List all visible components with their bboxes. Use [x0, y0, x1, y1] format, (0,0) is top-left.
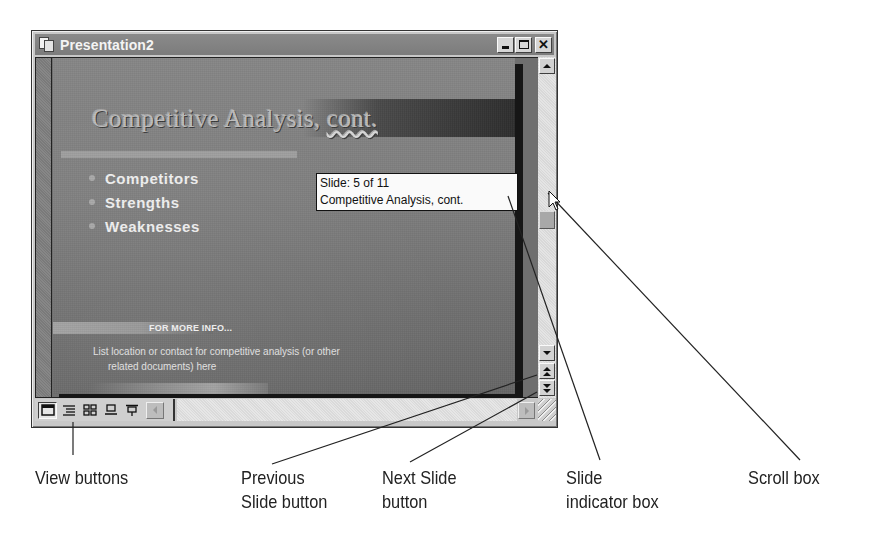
caption-scroll-box: Scroll box: [748, 466, 820, 490]
notes-page-view-button[interactable]: [101, 402, 120, 419]
presentation-window: Presentation2 ✕ Competitive Analysis, co…: [31, 30, 558, 428]
bullet-item: Weaknesses: [89, 214, 200, 238]
bullet-text: Strengths: [105, 194, 180, 211]
title-rule-decoration: [61, 151, 297, 158]
scroll-up-button[interactable]: [539, 58, 555, 74]
slide-indicator-box: Slide: 5 of 11 Competitive Analysis, con…: [316, 173, 518, 211]
bullet-dot-icon: [89, 175, 95, 181]
bullet-dot-icon: [89, 223, 95, 229]
bullet-text: Weaknesses: [105, 218, 200, 235]
outline-view-button[interactable]: [59, 402, 78, 419]
slide-title-spellcheck-word: cont.: [327, 105, 378, 132]
minimize-icon: [502, 46, 509, 49]
arrow-left-icon: [153, 406, 157, 414]
slide-indicator-title: Competitive Analysis, cont.: [320, 192, 514, 209]
slide-indicator-position: Slide: 5 of 11: [320, 175, 514, 192]
close-button[interactable]: ✕: [535, 37, 552, 53]
slide-pane-gutter: [36, 58, 52, 397]
info-text-line: List location or contact for competitive…: [93, 346, 340, 357]
info-text[interactable]: List location or contact for competitive…: [93, 344, 473, 374]
arrow-up-icon: [543, 64, 551, 68]
title-bar[interactable]: Presentation2 ✕: [35, 34, 554, 55]
presentation-document-icon[interactable]: [39, 37, 56, 53]
slide-shadow: [515, 64, 523, 397]
caption-text: Slide: [566, 466, 659, 490]
slide-sorter-view-button[interactable]: [80, 402, 99, 419]
normal-view-icon: [41, 404, 55, 416]
window-title: Presentation2: [60, 37, 154, 53]
scroll-right-button[interactable]: [518, 402, 535, 419]
arrow-down-icon: [543, 351, 551, 355]
vertical-scrollbar[interactable]: [538, 57, 556, 398]
slide-canvas[interactable]: Competitive Analysis, cont. Competitors …: [53, 58, 515, 394]
double-arrow-down-icon: [543, 389, 551, 393]
next-slide-button[interactable]: [539, 380, 555, 396]
maximize-icon: [519, 40, 529, 49]
bullet-item: Strengths: [89, 190, 200, 214]
caption-text: Slide button: [241, 490, 327, 514]
caption-text: Previous: [241, 466, 327, 490]
double-arrow-down-icon: [543, 384, 551, 388]
caption-next-slide-button: Next Slide button: [382, 466, 456, 514]
double-arrow-up-icon: [543, 367, 551, 371]
double-arrow-up-icon: [543, 372, 551, 376]
minimize-button[interactable]: [497, 37, 514, 53]
info-label: FOR MORE INFO...: [149, 323, 232, 333]
slide-show-icon: [125, 404, 139, 416]
slide-title[interactable]: Competitive Analysis, cont.: [92, 105, 378, 133]
normal-view-button[interactable]: [38, 402, 57, 419]
scroll-down-button[interactable]: [539, 345, 555, 361]
horizontal-scrollbar[interactable]: [177, 399, 517, 421]
bullet-dot-icon: [89, 199, 95, 205]
slide-show-button[interactable]: [122, 402, 141, 419]
caption-text: button: [382, 490, 456, 514]
caption-text: indicator box: [566, 490, 659, 514]
scroll-left-button[interactable]: [146, 402, 164, 419]
maximize-button[interactable]: [515, 37, 532, 53]
slide-sorter-icon: [83, 404, 97, 416]
close-icon: ✕: [538, 38, 549, 51]
caption-text: Scroll box: [748, 466, 820, 490]
slide-shadow: [59, 394, 523, 398]
slide-title-text: Competitive Analysis,: [92, 105, 327, 132]
caption-text: View buttons: [35, 466, 128, 490]
info-text-line: related documents) here: [93, 359, 473, 374]
arrow-right-icon: [525, 407, 529, 415]
slide-pane[interactable]: Competitive Analysis, cont. Competitors …: [35, 57, 539, 398]
notes-page-icon: [104, 404, 118, 416]
caption-view-buttons: View buttons: [35, 466, 128, 490]
scroll-box[interactable]: [539, 211, 555, 229]
outline-view-icon: [62, 404, 76, 416]
previous-slide-button[interactable]: [539, 363, 555, 379]
resize-grip[interactable]: [538, 399, 556, 421]
bullet-text: Competitors: [105, 170, 199, 187]
bullet-item: Competitors: [89, 166, 200, 190]
caption-slide-indicator-box: Slide indicator box: [566, 466, 659, 514]
mouse-pointer-icon: [548, 190, 562, 212]
view-buttons: [35, 399, 175, 421]
caption-previous-slide-button: Previous Slide button: [241, 466, 327, 514]
bottom-bar-decoration: [88, 383, 268, 394]
caption-text: Next Slide: [382, 466, 456, 490]
bullet-list[interactable]: Competitors Strengths Weaknesses: [89, 166, 200, 238]
